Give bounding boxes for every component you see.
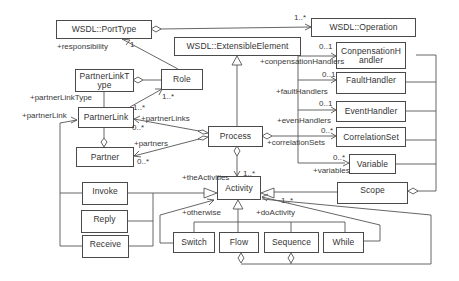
class-reply: Reply (81, 210, 128, 233)
mult-compensation: 0..1 (319, 42, 332, 51)
class-name: Invoke (92, 187, 118, 196)
class-name-line2: andler (359, 56, 383, 65)
class-compensationhandler: ConpensationH andler (336, 42, 406, 69)
class-switch: Switch (173, 232, 215, 253)
class-name: Switch (181, 238, 207, 247)
mult-fault: 0..1 (322, 70, 335, 79)
class-name: FaultHandler (346, 76, 396, 85)
class-name: Process (220, 132, 251, 141)
mult-partners: 0..* (137, 157, 149, 166)
class-role: Role (161, 69, 203, 90)
class-name: Role (173, 75, 191, 84)
class-name-line2: ype (97, 81, 111, 90)
class-partnerlink: PartnerLink (78, 107, 134, 128)
role-theactivities: +theActivities (182, 173, 229, 182)
mult-operation: 1..* (294, 13, 306, 22)
class-name: WSDL::PortType (72, 25, 137, 34)
class-name: Receive (90, 240, 121, 249)
class-name: Reply (93, 215, 115, 224)
role-partners: +partners (134, 139, 168, 148)
class-faulthandler: FaultHandler (336, 72, 406, 94)
class-name: Activity (225, 184, 253, 193)
class-name: While (333, 238, 355, 247)
class-name: Variable (357, 160, 388, 169)
class-wsdl-operation: WSDL::Operation (311, 18, 416, 37)
mult-role: 1..* (162, 92, 174, 101)
role-partnerlinktype: +partnerLinkType (30, 93, 92, 102)
role-otherwise: +otherwise (182, 208, 221, 217)
class-receive: Receive (82, 235, 129, 258)
class-name: Partner (91, 153, 120, 162)
class-wsdl-porttype: WSDL::PortType (56, 20, 152, 39)
class-eventhandler: EventHandler (336, 101, 406, 122)
class-scope: Scope (337, 182, 408, 204)
class-variable: Variable (349, 154, 396, 174)
class-partnerlinktype: PartnerLinkT ype (75, 69, 134, 92)
role-correlationsets: +correlationSets (267, 138, 325, 147)
class-name: PartnerLink (84, 113, 129, 122)
class-name: CorrelationSet (343, 133, 399, 142)
class-sequence: Sequence (264, 232, 319, 253)
mult-partnerlink-role: 1..* (133, 103, 145, 112)
class-name: Scope (360, 186, 385, 195)
role-responsibility: +responsibility (57, 42, 108, 51)
role-compensationhandlers: +conpensationHandlers (260, 57, 344, 66)
uml-diagram-canvas: WSDL::PortType WSDL::Operation WSDL::Ext… (0, 0, 459, 281)
class-name: Sequence (272, 238, 311, 247)
class-partner: Partner (76, 147, 134, 167)
role-partnerlink: +partnerLink (22, 111, 67, 120)
role-variables: +variables (313, 166, 350, 175)
mult-correlation: 0..* (321, 126, 333, 135)
role-faulthandlers: +faultHandlers (276, 87, 328, 96)
class-invoke: Invoke (82, 182, 128, 205)
mult-partnerlinks: 0..* (132, 123, 144, 132)
mult-variables: 0..* (333, 153, 345, 162)
class-wsdl-extensibleelement: WSDL::ExtensibleElement (174, 37, 301, 56)
role-partnerlinks: +partnerLinks (141, 114, 190, 123)
class-name: WSDL::ExtensibleElement (187, 42, 289, 51)
mult-event: 0..1 (319, 99, 332, 108)
mult-doactivity: 1..* (281, 196, 293, 205)
class-name: EventHandler (345, 107, 398, 116)
mult-porttype: 1 (130, 40, 134, 49)
class-flow: Flow (219, 232, 259, 253)
mult-activities: 1..* (243, 169, 255, 178)
role-doactivity: +doActivity (256, 208, 295, 217)
class-process: Process (208, 126, 263, 147)
class-while: While (323, 232, 364, 253)
class-name: WSDL::Operation (329, 23, 397, 32)
class-correlationset: CorrelationSet (336, 127, 406, 147)
role-eventhandlers: +evenHandlers (277, 116, 331, 125)
class-name: Flow (230, 238, 248, 247)
